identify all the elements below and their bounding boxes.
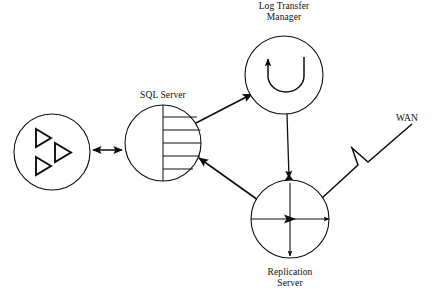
diagram-svg — [0, 0, 436, 298]
client-cluster-circle — [14, 114, 90, 190]
log-transfer-manager-circle — [245, 36, 323, 114]
node-replication-server[interactable] — [251, 180, 329, 258]
log-transfer-manager-label-line2: Manager — [267, 12, 301, 22]
edge-replication-to-wan[interactable] — [322, 124, 412, 198]
replication-server-label: ReplicationServer — [249, 267, 331, 289]
wan-label: WAN — [396, 113, 432, 124]
arrow-ltm-to-replication — [287, 114, 289, 178]
replication-server-label-line2: Server — [277, 278, 302, 288]
edge-replication-to-sql[interactable] — [199, 158, 258, 200]
sql-server-label: SQL Server — [122, 90, 204, 101]
node-sql-server[interactable] — [125, 105, 201, 181]
log-transfer-manager-label: Log TransferManager — [243, 1, 325, 23]
node-client-cluster[interactable] — [14, 114, 90, 190]
diagram-canvas: SQL Server Log TransferManager Replicati… — [0, 0, 436, 298]
log-transfer-manager-label-line1: Log Transfer — [259, 1, 310, 11]
arrow-sql-to-ltm — [196, 94, 252, 123]
edge-log-transfer-manager-to-replication[interactable] — [283, 114, 295, 183]
arrow-replication-to-sql — [199, 158, 258, 200]
edge-sql-to-log-transfer-manager[interactable] — [196, 94, 252, 123]
wan-lightning-bolt-icon — [322, 124, 412, 198]
replication-server-label-line1: Replication — [268, 267, 313, 277]
node-log-transfer-manager[interactable] — [245, 36, 323, 114]
